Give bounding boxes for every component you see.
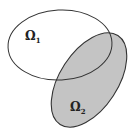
diagram-canvas: Ω1 Ω2 <box>0 0 140 131</box>
set-omega2-region <box>36 20 140 131</box>
diagram: Ω1 Ω2 <box>0 0 140 131</box>
set-omega1-label: Ω1 <box>25 29 41 45</box>
